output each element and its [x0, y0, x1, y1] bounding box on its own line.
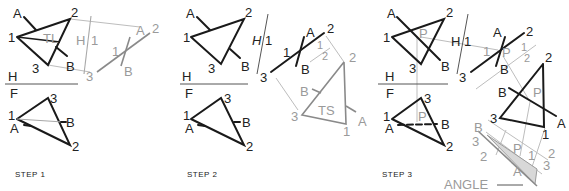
label-fold-1: 1 — [91, 33, 98, 48]
label-1: 1 — [183, 30, 190, 45]
line-ab-aux1 — [121, 37, 130, 66]
line-ab-top-a — [197, 17, 210, 30]
projection-line — [70, 19, 140, 27]
line-ab-front — [398, 124, 437, 125]
label-a-ts: A — [557, 116, 566, 131]
label-2-final: 2 — [480, 149, 487, 164]
label-b-ts: B — [300, 84, 309, 99]
step-2-label: STEP 2 — [187, 170, 217, 179]
label-angle: ANGLE — [444, 177, 488, 191]
label-2-front: 2 — [446, 139, 453, 154]
label-a: A — [387, 6, 396, 21]
descriptive-geometry-figure: A 2 1 TL 3 B H 1 A 2 1 B 3 H F 3 1 A B 2… — [0, 0, 569, 191]
label-1: 1 — [8, 30, 15, 45]
label-b-ts: B — [498, 85, 507, 100]
label-3-final: 3 — [472, 134, 479, 149]
label-a-aux: A — [493, 25, 502, 40]
label-3: 3 — [208, 61, 215, 76]
label-a-front: A — [185, 121, 194, 136]
label-fold-2: 2 — [524, 52, 530, 64]
step-3-panel: A 2 1 P 3 B H 1 3 1 P A 2 B 1 2 2 B P 3 … — [378, 5, 566, 191]
label-3: 3 — [32, 61, 39, 76]
label-a-ts: A — [358, 114, 367, 129]
projection-line — [276, 78, 298, 110]
label-p-top: P — [419, 26, 428, 41]
label-b: B — [241, 59, 250, 74]
label-3-ts: 3 — [490, 111, 497, 126]
label-b-aux: B — [301, 62, 310, 77]
label-3-aux: 3 — [459, 70, 466, 85]
line-ab-front-a — [198, 125, 205, 126]
label-3-aux: 3 — [260, 70, 267, 85]
label-1-final: 1 — [528, 148, 535, 163]
label-2-front: 2 — [246, 139, 253, 154]
label-3-ts: 3 — [291, 109, 298, 124]
label-tl: TL — [43, 31, 58, 46]
line-ab-top-a — [24, 17, 36, 30]
label-3-aux: 3 — [86, 69, 93, 84]
label-fold-1: 1 — [464, 34, 471, 49]
label-3-front: 3 — [50, 91, 57, 106]
label-a-aux: A — [136, 23, 145, 38]
label-h: H — [182, 69, 191, 84]
label-h: H — [385, 69, 394, 84]
label-p-final: P — [513, 141, 522, 156]
label-a-aux: A — [306, 25, 315, 40]
label-b-front: B — [66, 115, 75, 130]
label-fold-h: H — [252, 33, 262, 48]
line-ab-ts-a — [346, 106, 356, 112]
label-fold-h: H — [76, 33, 85, 48]
label-fold-2: 2 — [322, 50, 328, 62]
label-2-aux: 2 — [526, 24, 533, 39]
label-a-front: A — [10, 121, 19, 136]
label-b-front: B — [242, 115, 251, 130]
label-a: A — [13, 6, 22, 21]
label-2-ts: 2 — [545, 50, 552, 65]
label-1-ts: 1 — [343, 124, 350, 139]
line-ab-top-b — [230, 49, 240, 58]
label-f: F — [185, 86, 193, 101]
label-3-front: 3 — [224, 91, 231, 106]
label-1: 1 — [383, 30, 390, 45]
step-1-label: STEP 1 — [15, 170, 45, 179]
line-ab-ts-b — [312, 89, 321, 93]
label-1-aux: 1 — [483, 44, 490, 59]
label-a-final: A — [513, 164, 522, 179]
label-1-aux: 1 — [283, 45, 290, 60]
label-p-ts: P — [533, 85, 542, 100]
step-2-panel: A 2 1 3 B H 1 3 1 A 2 B 1 2 2 B 3 TS A 1… — [180, 5, 367, 179]
label-a-front: A — [385, 121, 394, 136]
step-3-label: STEP 3 — [382, 170, 412, 179]
label-fold-h: H — [451, 34, 460, 49]
label-2: 2 — [245, 5, 252, 20]
label-b: B — [66, 59, 75, 74]
label-2: 2 — [446, 5, 453, 20]
label-2-aux: 2 — [327, 21, 334, 36]
step-1-panel: A 2 1 TL 3 B H 1 A 2 1 B 3 H F 3 1 A B 2… — [5, 5, 159, 179]
label-3-fold: 3 — [543, 158, 550, 173]
label-p-front: P — [418, 109, 427, 124]
label-h: H — [8, 69, 17, 84]
label-1-ts: 1 — [542, 127, 549, 142]
label-b-front: B — [441, 117, 450, 132]
label-ts: TS — [318, 103, 335, 118]
line-ab-front-a — [24, 125, 31, 126]
label-b-final: B — [474, 120, 483, 135]
label-f: F — [10, 86, 18, 101]
label-3-front: 3 — [424, 91, 431, 106]
label-fold-1: 1 — [265, 33, 272, 48]
label-2-aux: 2 — [152, 21, 159, 36]
label-2: 2 — [71, 5, 78, 20]
label-2-ts: 2 — [349, 50, 356, 65]
label-3: 3 — [409, 61, 416, 76]
label-b: B — [441, 59, 450, 74]
label-a: A — [186, 6, 195, 21]
label-1-aux: 1 — [112, 44, 119, 59]
label-b-aux: B — [124, 64, 133, 79]
label-f: F — [386, 86, 394, 101]
label-p-aux: P — [502, 45, 511, 60]
label-2-front: 2 — [72, 139, 79, 154]
top-view-triangle — [191, 19, 244, 64]
line-ab-top-b — [56, 47, 67, 56]
label-b-aux: B — [500, 62, 509, 77]
